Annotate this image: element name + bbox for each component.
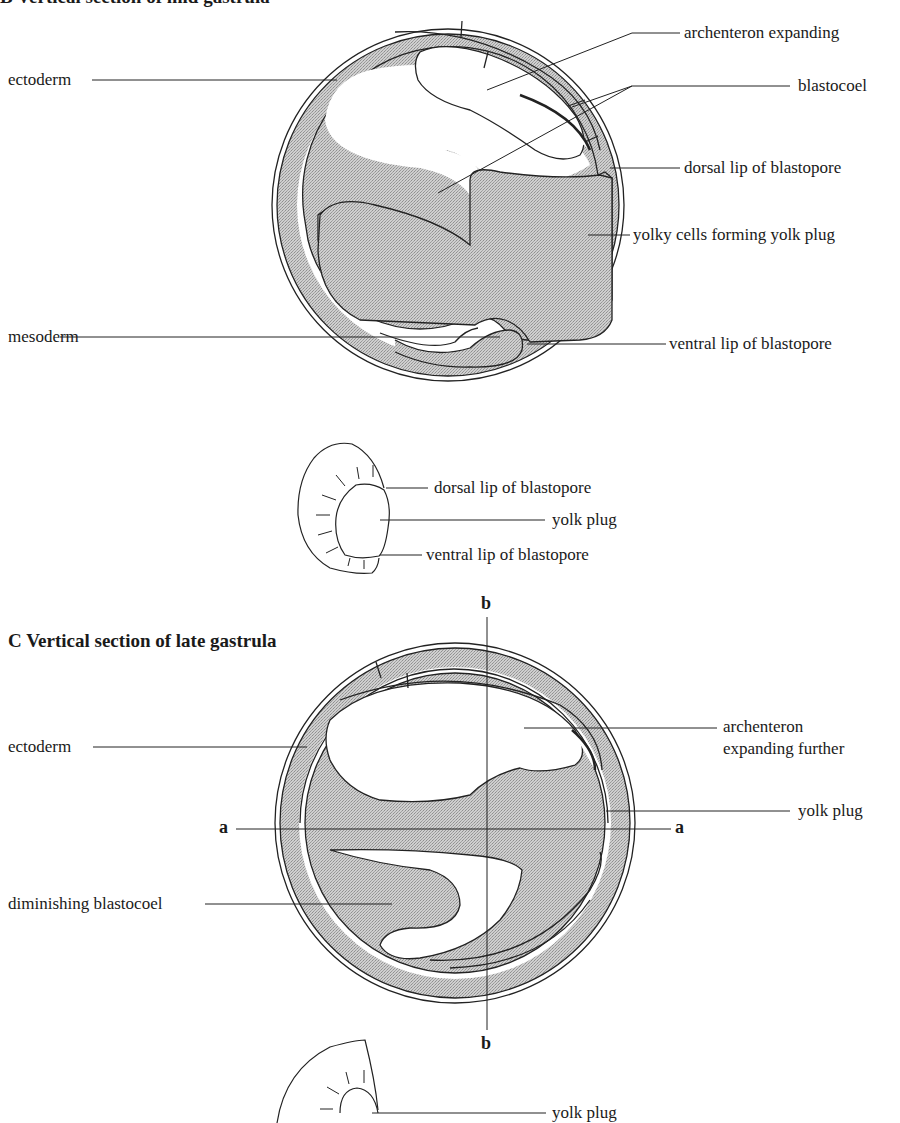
axis-label-b-top: b: [481, 593, 491, 614]
label-diminishing-blastocoel: diminishing blastocoel: [8, 894, 162, 914]
late-gastrula-section: [275, 643, 635, 1003]
label-dorsal-lip-b: dorsal lip of blastopore: [684, 158, 841, 178]
axis-label-a-right: a: [675, 817, 684, 838]
axis-label-b-bottom: b: [481, 1033, 491, 1054]
label-archenteron-c-2: expanding further: [723, 739, 844, 759]
label-yolk-plug-c: yolk plug: [798, 801, 863, 821]
external-view-c: [277, 1040, 546, 1123]
label-ext-yolk-plug-c: yolk plug: [552, 1103, 617, 1123]
label-blastocoel-b: blastocoel: [798, 76, 867, 96]
label-ectoderm-b: ectoderm: [8, 70, 71, 90]
label-yolky-cells: yolky cells forming yolk plug: [633, 225, 835, 245]
label-mesoderm: mesoderm: [8, 327, 79, 347]
label-ext-yolk-plug-b: yolk plug: [552, 510, 617, 530]
label-archenteron-b: archenteron expanding: [684, 23, 839, 43]
label-ext-dorsal-lip: dorsal lip of blastopore: [434, 478, 591, 498]
label-ventral-lip-b: ventral lip of blastopore: [669, 334, 832, 354]
arrow-icons: [320, 1070, 364, 1109]
figure-c-title: C Vertical section of late gastrula: [8, 630, 277, 652]
mid-gastrula-section: [272, 21, 624, 381]
label-ext-ventral-lip: ventral lip of blastopore: [426, 545, 589, 565]
figure-b-title: B Vertical section of mid gastrula: [0, 0, 270, 8]
label-ectoderm-c: ectoderm: [8, 737, 71, 757]
axis-label-a-left: a: [219, 817, 228, 838]
label-archenteron-c-1: archenteron: [723, 717, 803, 737]
